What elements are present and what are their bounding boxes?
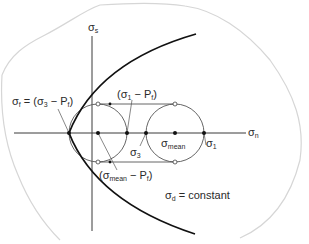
- open-point-upper-right: [173, 102, 177, 106]
- arrow-dot-upper: [109, 103, 112, 106]
- sigma-n-axis-label: σn: [248, 127, 259, 139]
- open-point-upper-left: [96, 102, 100, 106]
- leader-shifted-max: [127, 100, 132, 133]
- point-shifted-mean: [96, 131, 100, 135]
- point-sigma3: [144, 131, 148, 135]
- point-sigma1: [202, 131, 206, 135]
- sigma-d-constant-label: σd = constant: [165, 190, 230, 202]
- point-shifted-max: [125, 131, 129, 135]
- arrow-dot-lower: [109, 161, 112, 164]
- shifted-mean-label: (σmean − Pf): [99, 170, 152, 182]
- sigma1-label: σ1: [206, 138, 217, 150]
- background-outline: [2, 3, 302, 240]
- mohr-circle-diagram: [0, 0, 309, 244]
- leader-sigma-f: [58, 109, 69, 133]
- open-point-lower-right: [173, 160, 177, 164]
- sigma3-label: σ3: [130, 147, 141, 159]
- open-point-lower-left: [96, 160, 100, 164]
- leader-shifted-mean: [98, 133, 117, 170]
- leader-sigma3: [140, 133, 146, 146]
- point-sigma-mean: [173, 131, 177, 135]
- sigma-f-label: σf = (σ3 − Pf): [12, 96, 73, 108]
- sigma-s-axis-label: σs: [88, 22, 98, 34]
- sigma-mean-label: σmean: [161, 138, 185, 150]
- point-sigma-f: [67, 131, 71, 135]
- failure-envelope: [69, 34, 196, 234]
- shifted-max-label: (σ1 − Pf): [117, 89, 157, 101]
